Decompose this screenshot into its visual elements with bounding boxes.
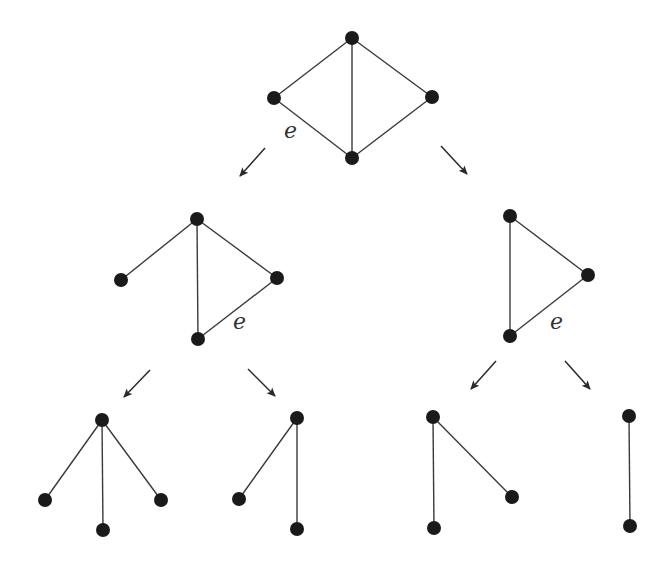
graph-edge [102,420,161,500]
graph-vertex [38,493,52,507]
graph-bottom-1 [38,413,168,537]
edge-label-e: e [233,309,246,334]
graph-bottom-2 [232,411,304,536]
graph-vertex [270,271,284,285]
graph-vertex [191,332,205,346]
graph-edge [274,38,352,98]
graph-edge [45,420,102,500]
arrow-icon [124,370,150,397]
graph-tree-diagram: eee [0,0,669,565]
graph-vertex [232,492,246,506]
graph-edge [510,216,588,275]
graph-edge [239,418,297,499]
graph-vertex [114,273,128,287]
arrows-layer [124,146,590,397]
graph-vertex [154,493,168,507]
edge-label-e: e [284,118,297,143]
graph-vertex [290,522,304,536]
graph-vertex [622,409,636,423]
graph-edge [352,38,432,97]
graph-vertex [581,268,595,282]
graph-edge [629,416,630,526]
arrow-icon [565,361,590,389]
diagram-svg: eee [0,0,669,565]
graph-bottom-3 [426,410,519,535]
graph-bottom-4 [622,409,637,533]
graphs-layer: eee [38,31,637,537]
graph-edge [433,417,434,528]
graph-mid-left: e [114,212,284,346]
graph-vertex [426,410,440,424]
graph-vertex [267,91,281,105]
graph-vertex [503,209,517,223]
graph-vertex [425,90,439,104]
arrow-icon [471,361,496,389]
graph-vertex [95,413,109,427]
graph-edge [102,420,103,530]
graph-vertex [290,411,304,425]
edge-label-e: e [550,309,563,334]
graph-mid-right: e [503,209,595,343]
graph-vertex [623,519,637,533]
graph-vertex [345,151,359,165]
graph-vertex [427,521,441,535]
graph-vertex [503,329,517,343]
graph-vertex [96,523,110,537]
arrow-icon [248,369,275,396]
graph-root: e [267,31,439,165]
graph-vertex [505,490,519,504]
graph-edge [121,219,197,280]
graph-vertex [190,212,204,226]
arrow-icon [441,146,467,174]
graph-edge [433,417,512,497]
graph-vertex [345,31,359,45]
graph-edge [352,97,432,158]
graph-edge [197,219,198,339]
graph-edge [197,219,277,278]
graph-edge [510,275,588,336]
arrow-icon [240,148,265,176]
